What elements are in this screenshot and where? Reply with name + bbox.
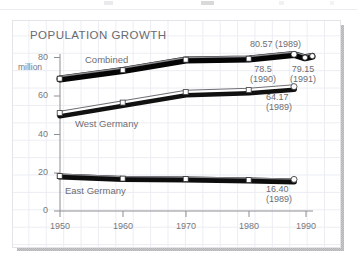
annotation-west-germany-value: 64.17 <box>266 92 289 103</box>
bleed-rule <box>0 9 357 10</box>
x-tick-1960: 1960 <box>106 221 140 231</box>
annotation-combined-1989: 80.57 (1989) <box>250 39 301 50</box>
y-axis-unit-label: million <box>18 62 42 72</box>
series-label-combined: Combined <box>85 54 128 65</box>
annotation-combined-1991-year: (1991) <box>282 74 324 85</box>
annotation-combined-1990-year: (1990) <box>242 74 284 85</box>
x-axis-ticks <box>60 211 306 217</box>
x-tick-1990: 1990 <box>289 221 323 231</box>
page-top-bleed <box>0 0 357 13</box>
series-west-germany <box>57 84 297 116</box>
y-tick-20: 20 <box>22 167 48 177</box>
series-east-germany <box>57 174 297 183</box>
chart-svg <box>13 21 340 247</box>
bleed-mark-3 <box>279 1 284 5</box>
y-tick-0: 0 <box>22 205 48 215</box>
plot-area <box>13 21 340 247</box>
y-tick-40: 40 <box>22 129 48 139</box>
series-label-east-germany: East Germany <box>65 185 126 196</box>
x-tick-1970: 1970 <box>169 221 203 231</box>
screenshot-root: POPULATION GROWTH <box>0 0 357 274</box>
annotation-combined-1991-value: 79.15 <box>282 64 324 75</box>
annotation-west-germany-year: (1989) <box>266 102 292 113</box>
annotation-east-germany-value: 16.40 <box>266 184 289 195</box>
annotation-east-germany-year: (1989) <box>266 194 292 205</box>
y-tick-60: 60 <box>22 90 48 100</box>
series-label-west-germany: West Germany <box>75 118 138 129</box>
bleed-mark-2 <box>201 1 214 5</box>
annotation-combined-1990-value: 78.5 <box>245 64 281 75</box>
bleed-mark-4 <box>330 1 334 5</box>
bleed-mark-1 <box>104 1 113 5</box>
chart-card: POPULATION GROWTH <box>12 20 341 248</box>
x-tick-1950: 1950 <box>43 221 77 231</box>
x-tick-1980: 1980 <box>232 221 266 231</box>
y-tick-80: 80 <box>22 52 48 62</box>
